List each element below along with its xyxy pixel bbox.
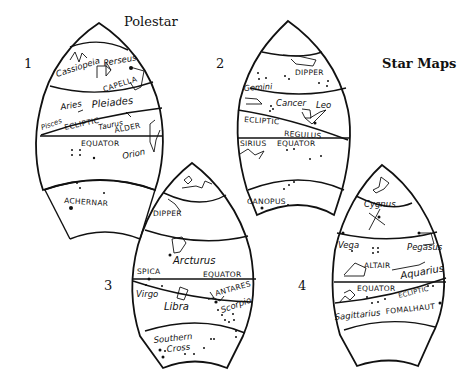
label-orion: Orion: [121, 146, 146, 161]
label-ecliptic-1: ECLIPTIC: [64, 116, 100, 132]
label-scorpio: Scorpio: [219, 295, 252, 315]
label-aries: Aries: [59, 98, 83, 112]
label-vega: Vega: [338, 240, 359, 250]
label-arcturus: Arcturus: [172, 255, 215, 266]
label-libra: Libra: [164, 301, 189, 312]
label-perseus: Perseus: [103, 52, 138, 68]
label-equator-2: EQUATOR: [277, 139, 315, 148]
label-cancer: Cancer: [276, 98, 306, 108]
label-capella: CAPELLA: [102, 74, 139, 94]
label-dipper-3: DIPPER: [153, 209, 182, 218]
label-pleiades: Pleiades: [91, 95, 134, 110]
label-pegasus: Pegasus: [407, 242, 443, 252]
label-equator-3: EQUATOR: [203, 270, 241, 279]
label-equator-4: EQUATOR: [357, 284, 395, 293]
label-ecliptic-2: ECLIPTIC: [244, 115, 280, 126]
label-ecliptic-4: ECLIPTIC: [398, 285, 430, 300]
star-map-3: DIPPER Arcturus SPICA EQUATOR Virgo Libr…: [132, 163, 256, 368]
star-maps-diagram: Cassiopeia Perseus CAPELLA Aries Pleiade…: [0, 0, 468, 388]
label-dipper-2: DIPPER: [295, 68, 324, 77]
label-fomalhaut: FOMALHAUT: [385, 302, 435, 316]
label-canopus: CANOPUS: [247, 197, 286, 206]
label-cygnus: Cygnus: [364, 199, 396, 209]
label-equator-1: EQUATOR: [81, 139, 119, 148]
label-leo: Leo: [316, 100, 331, 110]
label-aquarius: Aquarius: [398, 262, 444, 281]
label-cross: Cross: [166, 342, 191, 354]
star-map-1: Cassiopeia Perseus CAPELLA Aries Pleiade…: [36, 23, 163, 239]
label-sagittarius: Sagittarius: [334, 307, 381, 322]
star-map-4: Cygnus Vega Pegasus ALTAIR Aquarius EQUA…: [333, 165, 446, 366]
label-virgo: Virgo: [136, 289, 158, 299]
label-spica: SPICA: [137, 267, 161, 276]
star-map-2: DIPPER Gemini Cancer Leo ECLIPTIC REGULU…: [237, 21, 350, 215]
label-altair: ALTAIR: [364, 261, 391, 270]
label-sirius: SIRIUS: [240, 139, 266, 148]
